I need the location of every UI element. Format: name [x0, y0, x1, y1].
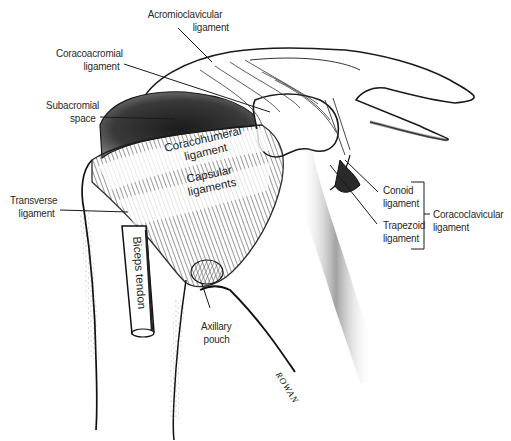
label-coracoclavicular-ligament: Coracoclavicular ligament	[433, 208, 503, 233]
axillary-pouch-shape	[191, 260, 223, 284]
label-conoid-ligament: Conoid ligament	[383, 184, 419, 209]
label-trapezoid-ligament: Trapezoid ligament	[383, 219, 425, 244]
label-acromioclavicular-ligament: Acromioclavicular ligament	[125, 8, 245, 33]
label-coracoacromial-ligament: Coracoacromial ligament	[56, 47, 123, 72]
label-axillary-pouch: Axillary pouch	[201, 320, 232, 345]
label-subacromial-space: Subacromial space	[46, 99, 99, 124]
label-transverse-ligament: Transverse ligament	[10, 194, 57, 219]
shoulder-ligament-diagram: Acromioclavicular ligament Coracoacromia…	[0, 0, 511, 441]
